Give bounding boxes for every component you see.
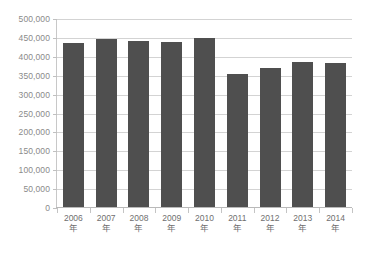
y-axis-tick-label: 300,000: [19, 90, 50, 100]
x-axis-tick: [352, 208, 353, 213]
y-axis-tick-label: 0: [45, 203, 50, 213]
y-axis-tick-label: 200,000: [19, 127, 50, 137]
y-axis-tick-label: 500,000: [19, 14, 50, 24]
y-axis-tick-label: 50,000: [23, 184, 50, 194]
y-axis-tick-label: 250,000: [19, 109, 50, 119]
bar: [194, 38, 215, 207]
bar-series: [57, 19, 352, 208]
bar: [325, 63, 346, 207]
bar: [161, 42, 182, 207]
y-axis-tick-label: 450,000: [19, 33, 50, 43]
x-axis-tick: [319, 208, 320, 213]
bar-chart: 500,000 450,000 400,000 350,000 300,000 …: [0, 0, 366, 267]
bar: [128, 41, 149, 207]
x-axis-tick-label: 2012年: [260, 214, 281, 233]
y-axis-tick-label: 100,000: [19, 165, 50, 175]
bar: [260, 68, 281, 207]
x-axis-tick-label: 2013年: [292, 214, 313, 233]
x-axis-tick-label: 2014年: [325, 214, 346, 233]
x-axis-labels: 2006年2007年2008年2009年2010年2011年2012年2013年…: [57, 214, 352, 267]
x-axis-tick: [221, 208, 222, 213]
x-axis-tick-label: 2010年: [194, 214, 215, 233]
x-axis-tick-label: 2011年: [227, 214, 248, 233]
y-axis-tick-label: 150,000: [19, 146, 50, 156]
x-axis-tick-label: 2007年: [96, 214, 117, 233]
bar: [227, 74, 248, 207]
x-axis-tick: [123, 208, 124, 213]
bar: [292, 62, 313, 207]
x-axis-tick: [90, 208, 91, 213]
y-axis-tick-label: 400,000: [19, 52, 50, 62]
x-axis-tick-label: 2009年: [161, 214, 182, 233]
x-axis-tick: [57, 208, 58, 213]
x-axis-tick: [286, 208, 287, 213]
y-axis-tick-label: 350,000: [19, 71, 50, 81]
bar: [96, 39, 117, 207]
y-axis-labels: 500,000 450,000 400,000 350,000 300,000 …: [0, 0, 54, 267]
x-axis-tick-label: 2008年: [128, 214, 149, 233]
x-axis-tick: [188, 208, 189, 213]
x-axis-tick: [155, 208, 156, 213]
x-axis-tick: [254, 208, 255, 213]
x-axis-tick-label: 2006年: [63, 214, 84, 233]
bar: [63, 43, 84, 207]
plot-area: [57, 19, 352, 208]
